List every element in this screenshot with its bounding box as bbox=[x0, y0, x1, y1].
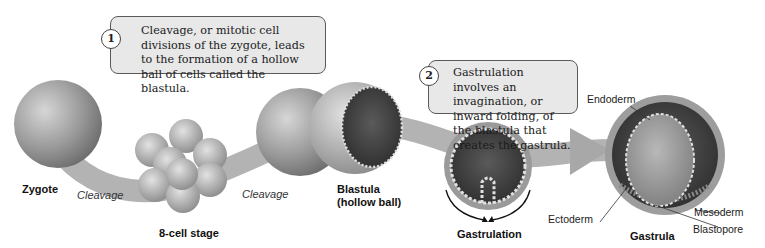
gastrula-embryo bbox=[605, 95, 725, 215]
label-endoderm: Endoderm bbox=[587, 93, 635, 105]
label-cleavage-2: Cleavage bbox=[242, 188, 288, 200]
label-blastula-line2: (hollow ball) bbox=[337, 196, 401, 209]
blastula-cutaway bbox=[309, 82, 402, 174]
step-number-1: 1 bbox=[101, 29, 121, 49]
zygote-sphere bbox=[14, 80, 102, 168]
callout-cleavage: 1 Cleavage, or mitotic cell divisions of… bbox=[110, 16, 326, 74]
label-gastrulation: Gastrulation bbox=[457, 228, 522, 241]
label-ectoderm: Ectoderm bbox=[548, 213, 593, 225]
label-zygote: Zygote bbox=[22, 183, 58, 196]
callout-text-2: Gastrulation involves an invagination, o… bbox=[453, 66, 571, 152]
label-eight-cell: 8-cell stage bbox=[159, 227, 219, 240]
arrow-head-icon bbox=[570, 128, 610, 175]
label-blastula-line1: Blastula bbox=[337, 183, 401, 196]
label-blastopore: Blastopore bbox=[693, 223, 743, 235]
eight-cell-cluster bbox=[135, 119, 227, 213]
label-blastula: Blastula (hollow ball) bbox=[337, 183, 401, 209]
label-mesoderm: Mesoderm bbox=[694, 206, 744, 218]
label-gastrula: Gastrula bbox=[630, 230, 675, 243]
step-number-2: 2 bbox=[419, 66, 439, 86]
callout-gastrulation: 2 Gastrulation involves an invagination,… bbox=[428, 60, 578, 114]
label-cleavage-1: Cleavage bbox=[77, 189, 123, 201]
